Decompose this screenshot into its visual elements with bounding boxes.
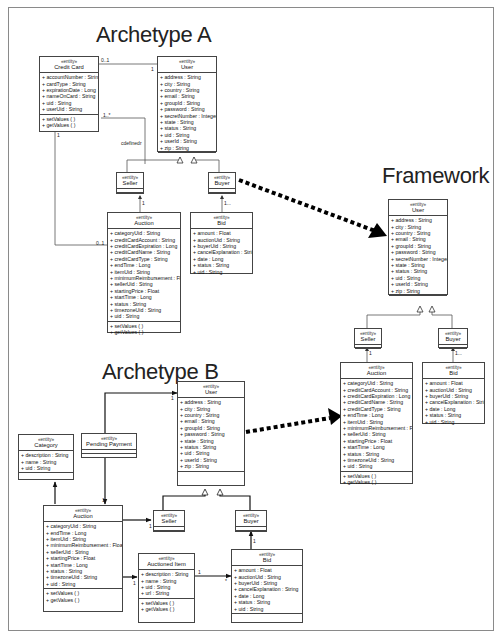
attribute: + nameOnCard : String — [42, 93, 97, 99]
class-bid-b[interactable]: «entity»Bid + amount : Float + auctionUi… — [231, 549, 303, 623]
class-name: Credit Card — [41, 64, 97, 71]
attribute: + uid : String — [46, 581, 121, 587]
operation: + getValues ( ) — [46, 597, 121, 603]
multiplicity-label: 1 — [57, 132, 60, 138]
operation: + getValues ( ) — [110, 329, 179, 335]
multiplicity-label: 1 — [133, 580, 136, 586]
class-category-b[interactable]: «entity»Category + description : String … — [18, 434, 74, 480]
operation: + getValues ( ) — [343, 479, 411, 485]
class-name: Bid — [424, 370, 483, 377]
attribute: + cancelExplanation : String — [234, 586, 301, 592]
attribute: + cancelExplanation : String — [425, 399, 483, 405]
class-auction-b[interactable]: «entity»Auction + categoryUid : String +… — [43, 505, 123, 612]
class-name: Buyer — [237, 518, 265, 525]
class-name: User — [159, 64, 215, 71]
attribute: + minimumReimbursement : Float — [46, 542, 121, 548]
class-buyer-framework[interactable]: «entity»Buyer — [438, 328, 468, 348]
attribute: + userUid : String — [42, 106, 97, 112]
class-auctioned-item-b[interactable]: «entity»Auctioned Item + description : S… — [138, 553, 195, 623]
class-user-b[interactable]: «entity»User + address : String + city :… — [177, 381, 245, 486]
class-bid-framework[interactable]: «entity»Bid + amount : Float + auctionUi… — [422, 362, 485, 424]
class-name: Bid — [233, 557, 301, 564]
class-name: Auction — [45, 513, 121, 520]
operation: + getValues ( ) — [42, 122, 97, 128]
class-name: Auction — [109, 220, 179, 227]
title-archetype-a: Archetype A — [96, 22, 211, 48]
class-user-framework[interactable]: «entity»User + address : String + city :… — [388, 199, 448, 295]
attribute: + uid : String — [110, 313, 179, 319]
multiplicity-label: 1 — [142, 200, 145, 206]
class-name: Pending Payment — [83, 441, 135, 448]
multiplicity-label: 1 — [151, 66, 154, 72]
multiplicity-label: 1 — [369, 350, 372, 356]
class-name: Buyer — [440, 336, 466, 343]
operation: + getValues ( ) — [141, 606, 193, 612]
class-user-a[interactable]: «entity»User + address : String + city :… — [157, 56, 217, 152]
class-seller-b[interactable]: «entity»Seller — [153, 510, 185, 532]
class-name: User — [390, 207, 446, 214]
class-auction-framework[interactable]: «entity»Auction + categoryUid : String +… — [340, 362, 413, 484]
class-name: Auctioned Item — [140, 561, 193, 568]
class-name: Auction — [342, 370, 411, 377]
class-name: Buyer — [210, 180, 234, 187]
multiplicity-label: * — [225, 578, 227, 584]
class-pending-payment-b[interactable]: «entity»Pending Payment — [81, 433, 137, 458]
class-seller-framework[interactable]: «entity»Seller — [354, 328, 382, 348]
multiplicity-label: 1 — [149, 523, 152, 529]
multiplicity-label: 1 — [198, 569, 201, 575]
class-buyer-a[interactable]: «entity»Buyer — [208, 172, 236, 194]
class-seller-a[interactable]: «entity»Seller — [116, 172, 144, 194]
attribute: + creditCardName : String — [343, 399, 411, 405]
class-name: Seller — [118, 180, 142, 187]
class-buyer-b[interactable]: «entity»Buyer — [235, 510, 267, 532]
attribute: + uid : String — [425, 419, 483, 425]
multiplicity-label: 0..1 — [96, 240, 104, 246]
attribute: + description : String — [21, 452, 72, 458]
attribute: + url : String — [141, 590, 193, 596]
attribute: + uid : String — [21, 465, 72, 471]
attribute: + zip : String — [391, 288, 446, 294]
class-name: Bid — [192, 220, 251, 227]
class-name: Category — [20, 442, 72, 449]
class-credit-card-a[interactable]: «entity»Credit Card + accountNumber : St… — [39, 56, 99, 132]
role-label: cdefinedr — [121, 140, 142, 146]
multiplicity-label: 1... — [224, 200, 231, 206]
class-name: Seller — [155, 518, 183, 525]
attribute: + uid : String — [234, 606, 301, 612]
multiplicity-label: 1 — [253, 538, 256, 544]
multiplicity-label: 0..1 — [101, 57, 109, 63]
class-auction-a[interactable]: «entity»Auction + categoryUid : String +… — [107, 212, 181, 333]
attribute: + cancelExplanation : String — [193, 249, 251, 255]
title-framework: Framework — [382, 163, 489, 189]
multiplicity-label: 1... — [455, 350, 462, 356]
multiplicity-label: 1 — [171, 395, 174, 401]
attribute: + accountNumber : String — [42, 74, 97, 80]
attribute: + uid : String — [343, 463, 411, 469]
attribute: + uid : String — [193, 269, 251, 275]
attribute: + creditCardName : String — [110, 249, 179, 255]
attribute: + zip : String — [160, 145, 215, 151]
class-name: User — [179, 389, 243, 396]
class-bid-a[interactable]: «entity»Bid + amount : Float + auctionUi… — [190, 212, 253, 274]
attribute: + description : String — [141, 571, 193, 577]
multiplicity-label: 1..* — [103, 112, 111, 118]
attribute: + zip : String — [180, 463, 243, 469]
class-name: Seller — [356, 336, 380, 343]
multiplicity-label: 1 — [102, 497, 105, 503]
